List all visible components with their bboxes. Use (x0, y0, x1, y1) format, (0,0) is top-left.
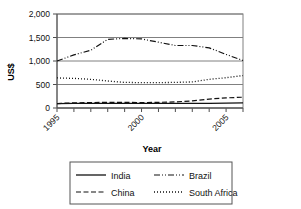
y-axis-tick-marks (53, 14, 57, 108)
x-tick-label: 2005 (210, 112, 231, 133)
x-tick-label: 1995 (41, 112, 62, 133)
y-tick-label: 500 (36, 80, 50, 90)
y-tick-label: 2,000 (29, 9, 51, 19)
legend-label-brazil: Brazil (189, 171, 212, 181)
x-axis-title: Year (142, 144, 162, 154)
line-chart: 05001,0001,5002,000 199520002005 US$ Yea… (0, 0, 301, 209)
legend-label-south-africa: South Africa (189, 188, 238, 198)
y-tick-label: 1,500 (29, 33, 51, 43)
series-line-south-africa (57, 76, 243, 83)
y-tick-label: 0 (45, 103, 50, 113)
chart-legend: IndiaBrazilChinaSouth Africa (70, 162, 238, 204)
chart-container: 05001,0001,5002,000 199520002005 US$ Yea… (0, 0, 301, 209)
x-axis-tick-labels: 199520002005 (41, 112, 231, 133)
data-series-layer (57, 38, 243, 103)
gridlines (57, 14, 243, 108)
legend-label-china: China (111, 188, 135, 198)
series-line-brazil (57, 38, 243, 61)
y-tick-label: 1,000 (29, 56, 51, 66)
y-axis-title: US$ (6, 63, 16, 81)
x-tick-label: 2000 (126, 112, 147, 133)
y-axis-tick-labels: 05001,0001,5002,000 (29, 9, 51, 113)
legend-label-india: India (111, 171, 131, 181)
x-axis-tick-marks (57, 108, 243, 112)
